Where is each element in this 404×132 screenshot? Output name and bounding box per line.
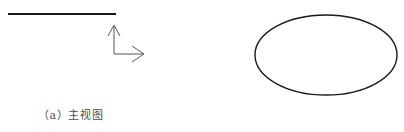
ellipse-outline bbox=[255, 15, 397, 95]
figure-panel-front-view: （a）主视图 bbox=[0, 0, 202, 132]
left-view-drawing bbox=[202, 0, 404, 132]
figure-panel-left-view: （b）左视图 bbox=[202, 0, 404, 132]
figure-sheet: （a）主视图 （b）左视图 bbox=[0, 0, 404, 132]
figure-caption-front-view: （a）主视图 bbox=[38, 106, 103, 122]
